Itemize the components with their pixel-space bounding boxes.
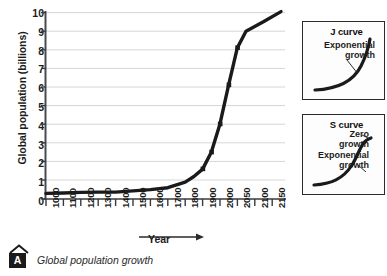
x-tick-label: 2050 bbox=[241, 188, 252, 208]
population-curve bbox=[46, 12, 281, 194]
caption-badge: A bbox=[9, 253, 26, 268]
figure-global-population-growth: Global population (billions) 10 9 8 7 6 … bbox=[0, 0, 387, 276]
x-tick-label: 1400 bbox=[120, 188, 131, 208]
inset-s-curve: S curve Zero growth Exponential growth bbox=[302, 114, 385, 195]
caption-text: Global population growth bbox=[37, 254, 153, 266]
x-tick-label: 1200 bbox=[85, 188, 96, 208]
gridlines bbox=[45, 13, 285, 180]
x-tick-label: 2000 bbox=[224, 188, 235, 208]
plot-canvas bbox=[0, 0, 290, 246]
x-tick-label: 1900 bbox=[207, 188, 218, 208]
x-tick-label: 2150 bbox=[276, 188, 287, 208]
x-axis-label: Year bbox=[148, 233, 170, 245]
inset-j-curve-graphic bbox=[303, 22, 386, 101]
x-tick-label: 1600 bbox=[154, 188, 165, 208]
x-tick-label: 1800 bbox=[189, 188, 200, 208]
main-chart: Global population (billions) 10 9 8 7 6 … bbox=[0, 0, 290, 246]
inset-s-curve-graphic bbox=[303, 115, 386, 196]
x-tick-label: 1500 bbox=[137, 188, 148, 208]
x-tick-label: 1100 bbox=[67, 188, 78, 208]
x-tick-label: 1000 bbox=[50, 188, 61, 208]
inset-j-curve: J curve Exponential growth bbox=[302, 21, 385, 100]
x-tick-label: 2100 bbox=[259, 188, 270, 208]
x-tick-label: 1300 bbox=[102, 188, 113, 208]
x-tick-label: 1700 bbox=[172, 188, 183, 208]
